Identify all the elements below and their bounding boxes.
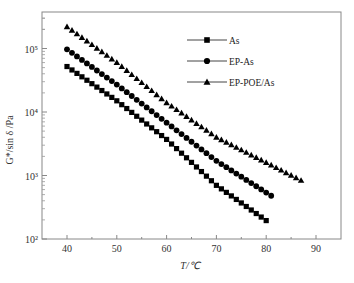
x-tick-label: 80 (261, 243, 271, 254)
square-marker (99, 88, 104, 93)
circle-marker (179, 131, 185, 137)
square-marker (154, 129, 159, 134)
circle-marker (214, 158, 220, 164)
y-axis-label: G*/sin δ /Pa (4, 115, 15, 165)
square-marker (264, 218, 269, 223)
triangle-marker (114, 59, 121, 65)
square-marker (209, 178, 214, 183)
data-series (64, 24, 305, 224)
circle-marker (223, 164, 229, 170)
square-marker (119, 102, 124, 107)
triangle-marker (99, 49, 106, 55)
square-marker (74, 71, 79, 76)
triangle-marker (79, 34, 86, 40)
y-tick-label: 10² (25, 234, 38, 245)
square-marker (79, 74, 84, 79)
triangle-marker (173, 106, 180, 112)
square-marker (94, 85, 99, 90)
circle-marker (233, 171, 239, 177)
square-marker (64, 64, 69, 69)
circle-marker (169, 124, 175, 130)
circle-marker (129, 93, 135, 99)
square-marker (239, 200, 244, 205)
circle-marker (204, 150, 210, 156)
square-marker (234, 197, 239, 202)
square-marker (194, 164, 199, 169)
triangle-marker (198, 124, 205, 130)
circle-marker (144, 105, 150, 111)
y-axis-ticks: 10²10³10⁴10⁵ (25, 18, 48, 245)
circle-marker (263, 190, 269, 196)
x-tick-label: 50 (112, 243, 122, 254)
plot-frame (42, 12, 341, 239)
square-marker (69, 67, 74, 72)
chart: 405060708090 10²10³10⁴10⁵ AsEP-AsEP-POE/… (0, 0, 354, 283)
circle-marker (238, 174, 244, 180)
legend-label: As (229, 36, 240, 46)
legend-item: As (187, 36, 240, 46)
circle-marker (154, 112, 160, 118)
circle-marker (243, 177, 249, 183)
square-marker (149, 125, 154, 130)
triangle-marker (89, 41, 96, 47)
circle-marker (69, 50, 75, 56)
square-marker (89, 81, 94, 86)
x-tick-label: 70 (211, 243, 221, 254)
circle-marker (199, 146, 205, 152)
triangle-marker (109, 56, 116, 62)
triangle-marker (104, 52, 111, 58)
circle-marker (99, 71, 105, 77)
square-marker (229, 193, 234, 198)
circle-marker (268, 193, 274, 199)
square-marker (199, 169, 204, 174)
circle-marker (119, 86, 125, 92)
triangle-marker (94, 45, 101, 51)
series-ep-as (64, 46, 274, 198)
square-marker (114, 98, 119, 103)
square-marker (214, 183, 219, 188)
triangle-marker (168, 103, 175, 109)
square-marker (189, 160, 194, 165)
square-marker (204, 37, 210, 43)
triangle-marker (193, 120, 200, 126)
x-tick-label: 90 (311, 243, 321, 254)
square-marker (224, 190, 229, 195)
legend-item: EP-POE/As (187, 78, 275, 88)
square-marker (124, 106, 129, 111)
square-marker (169, 141, 174, 146)
circle-marker (184, 135, 190, 141)
triangle-marker (208, 131, 215, 137)
square-marker (134, 114, 139, 119)
square-marker (174, 146, 179, 151)
square-marker (139, 118, 144, 123)
circle-marker (194, 143, 200, 149)
circle-marker (209, 154, 215, 160)
square-marker (204, 174, 209, 179)
legend-label: EP-As (229, 57, 254, 67)
circle-marker (248, 180, 254, 186)
triangle-marker (74, 31, 81, 37)
circle-marker (149, 108, 155, 114)
circle-marker (134, 97, 140, 103)
circle-marker (124, 89, 130, 95)
square-marker (84, 78, 89, 83)
circle-marker (228, 167, 234, 173)
triangle-marker (183, 113, 190, 119)
circle-marker (139, 101, 145, 107)
square-marker (109, 95, 114, 100)
square-marker (249, 207, 254, 212)
circle-marker (114, 82, 120, 88)
square-marker (104, 91, 109, 96)
x-tick-label: 40 (62, 243, 72, 254)
legend-label: EP-POE/As (229, 78, 275, 88)
circle-marker (89, 64, 95, 70)
y-tick-label: 10⁴ (25, 107, 39, 118)
square-marker (164, 137, 169, 142)
square-marker (244, 204, 249, 209)
legend-item: EP-As (187, 57, 254, 67)
y-tick-label: 10⁵ (25, 44, 39, 55)
circle-marker (258, 187, 264, 193)
circle-marker (189, 139, 195, 145)
circle-marker (84, 61, 90, 67)
square-marker (219, 186, 224, 191)
